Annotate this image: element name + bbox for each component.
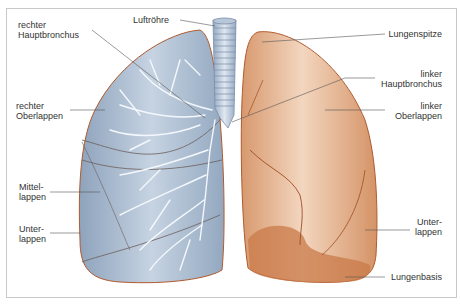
- label-left-upper-lobe-line1: linker: [420, 101, 442, 111]
- label-base: Lungenbasis: [391, 272, 442, 282]
- label-apex: Lungenspitze: [388, 29, 442, 39]
- label-right-lower-lobe-line2: lappen: [19, 234, 46, 244]
- label-left-main-bronchus-line1: linker: [420, 69, 442, 79]
- label-right-main-bronchus-line1: rechter: [18, 20, 46, 30]
- label-right-main-bronchus-line2: Hauptbronchus: [18, 30, 79, 40]
- label-left-lower-lobe-line2: lappen: [415, 227, 442, 237]
- label-trachea: Luftröhre: [133, 15, 169, 25]
- label-right-lower-lobe-line1: Unter-: [19, 224, 44, 234]
- label-left-upper-lobe-line2: Oberlappen: [395, 111, 442, 121]
- label-right-upper-lobe-line1: rechter: [16, 101, 44, 111]
- label-left-main-bronchus-line2: Hauptbronchus: [381, 79, 442, 89]
- label-right-upper-lobe-line2: Oberlappen: [16, 111, 63, 121]
- trachea: [213, 18, 236, 128]
- right-lung: [79, 30, 224, 283]
- label-middle-lobe-line2: lappen: [19, 192, 46, 202]
- label-middle-lobe-line1: Mittel-: [19, 182, 44, 192]
- label-left-lower-lobe-line1: Unter-: [417, 217, 442, 227]
- left-lung: [241, 32, 377, 283]
- lung-illustration: [0, 0, 460, 304]
